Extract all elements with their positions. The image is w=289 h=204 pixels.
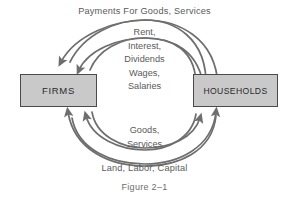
flow-label-interest: Interest,	[0, 40, 289, 54]
flow-label-wages: Wages,	[0, 67, 289, 81]
flow-label-factor-payments: Rent, Interest, Dividends Wages, Salarie…	[0, 26, 289, 94]
flow-label-services: Services	[0, 138, 289, 152]
flow-label-dividends: Dividends	[0, 53, 289, 67]
flow-label-goods: Goods,	[0, 124, 289, 138]
flow-label-goods-services: Goods, Services	[0, 124, 289, 151]
flow-label-rent: Rent,	[0, 26, 289, 40]
flow-label-salaries: Salaries	[0, 80, 289, 94]
flow-label-land-labor-capital: Land, Labor, Capital	[0, 163, 289, 173]
figure-caption: Figure 2–1	[0, 182, 289, 192]
figure-container: FIRMS HOUSEHOLDS Payments For Goods, Ser…	[0, 0, 289, 204]
flow-label-payments-for-goods-services: Payments For Goods, Services	[0, 6, 289, 16]
